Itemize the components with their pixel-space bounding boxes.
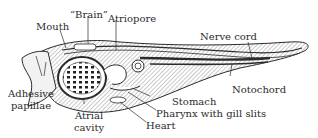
label-atrial-cavity-line2: cavity: [74, 122, 104, 133]
heart-structure: [110, 97, 126, 103]
label-mouth: Mouth: [36, 21, 69, 32]
label-pharynx: Pharynx with gill slits: [156, 108, 266, 119]
label-adhesive-papillae-line2: papillae: [8, 100, 54, 111]
label-atrial-cavity-line1: Atrial: [74, 110, 104, 121]
label-adhesive-papillae-line1: Adhesive: [8, 88, 54, 99]
label-notochord: Notochord: [232, 84, 286, 95]
label-atriopore: Atriopore: [108, 13, 156, 24]
label-heart: Heart: [146, 120, 175, 131]
label-nerve-cord: Nerve cord: [200, 31, 257, 42]
pharynx: [58, 57, 106, 99]
label-stomach: Stomach: [172, 96, 216, 107]
label-brain: “Brain”: [70, 9, 108, 20]
brain-structure: [74, 44, 96, 50]
